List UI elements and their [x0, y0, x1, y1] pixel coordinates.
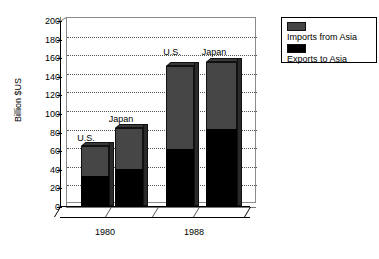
floor-corner-right — [244, 207, 257, 217]
bar-segment-exports — [115, 169, 143, 206]
bar-1988-us[interactable] — [166, 66, 194, 206]
chart-floor — [60, 207, 256, 219]
bar-1980-us[interactable] — [81, 146, 109, 206]
y-axis-ticks: 200 180 160 140 120 100 80 60 40 20 0 — [28, 21, 60, 207]
bar-side-face — [109, 142, 114, 206]
x-tick-label-1988: 1988 — [171, 228, 217, 237]
chart-legend: Imports from Asia Exports to Asia — [281, 17, 377, 63]
bar-label-1988-japan: Japan — [192, 48, 236, 57]
legend-label-imports: Imports from Asia — [287, 32, 371, 42]
bar-1980-japan[interactable] — [115, 128, 143, 206]
bar-label-1980-japan: Japan — [99, 115, 143, 124]
bar-label-1988-us: U.S. — [154, 48, 190, 57]
bar-side-face — [237, 58, 242, 206]
legend-swatch-row — [287, 44, 371, 53]
x-tick-divider — [193, 207, 206, 217]
bar-label-1980-us: U.S. — [68, 134, 104, 143]
legend-swatch-imports-icon — [287, 22, 306, 31]
x-tick-divider — [105, 207, 118, 217]
bar-side-face — [194, 62, 199, 206]
bar-segment-exports — [206, 129, 237, 206]
bar-chart-figure: Billion $US 200 180 160 140 120 100 80 6… — [0, 0, 379, 259]
x-tick-label-1980: 1980 — [82, 228, 128, 237]
x-tick-divider — [152, 207, 165, 217]
legend-swatch-exports-icon — [287, 44, 306, 53]
legend-entry-imports[interactable]: Imports from Asia — [287, 22, 371, 42]
bar-side-face — [143, 124, 148, 206]
y-axis-title: Billion $US — [13, 55, 23, 145]
bar-1988-japan[interactable] — [206, 62, 237, 206]
legend-swatch-row — [287, 22, 371, 31]
floor-front-edge — [60, 217, 250, 218]
bar-segment-exports — [81, 176, 109, 206]
legend-label-exports: Exports to Asia — [287, 54, 371, 64]
legend-entry-exports[interactable]: Exports to Asia — [287, 44, 371, 64]
bar-segment-exports — [166, 149, 194, 206]
